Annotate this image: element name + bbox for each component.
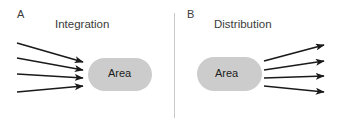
panel-distribution: B Distribution Area xyxy=(171,0,341,126)
arrow-in-4 xyxy=(17,86,83,92)
panel-integration: A Integration Area xyxy=(0,0,171,126)
area-label-a: Area xyxy=(108,68,131,79)
panel-b-graphics xyxy=(171,0,341,126)
figure-container: A Integration Area B Distribution xyxy=(0,0,341,126)
arrow-out-4 xyxy=(264,86,324,92)
panel-a-graphics xyxy=(0,0,171,126)
arrow-out-1 xyxy=(264,45,324,61)
arrow-out-3 xyxy=(264,76,324,78)
arrow-in-3 xyxy=(17,74,83,78)
arrow-out-2 xyxy=(264,61,324,70)
area-label-b: Area xyxy=(215,68,238,79)
